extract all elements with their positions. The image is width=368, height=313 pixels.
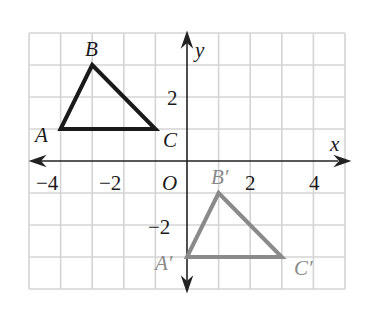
x-tick-label: 4 (309, 171, 320, 195)
origin-label: O (162, 171, 177, 195)
vertex-label-a-prime: A′ (153, 251, 173, 275)
x-tick-label: −4 (36, 171, 59, 195)
y-tick-label: 2 (167, 86, 178, 110)
vertex-label-c: C (163, 128, 178, 152)
vertex-label-b: B (85, 37, 98, 61)
x-tick-label: 2 (245, 171, 256, 195)
coordinate-plane: y x O −4 −2 2 4 2 −2 A B C A′ B′ C′ (0, 0, 368, 313)
x-axis-label: x (329, 132, 340, 156)
vertex-label-b-prime: B′ (211, 165, 229, 189)
y-axis-label: y (193, 38, 205, 62)
vertex-label-c-prime: C′ (294, 256, 313, 280)
x-axis (31, 157, 349, 166)
x-tick-label: −2 (99, 171, 121, 195)
y-tick-label: −2 (148, 215, 170, 239)
vertex-label-a: A (33, 123, 48, 147)
